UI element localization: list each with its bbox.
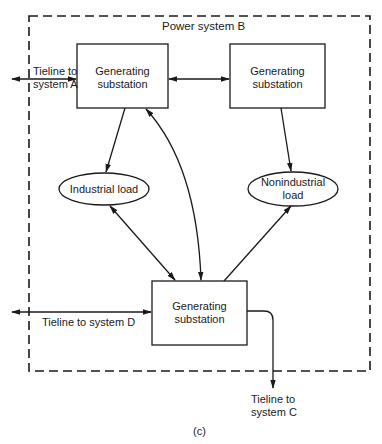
nonindustrial-line2: load	[248, 189, 338, 202]
gen-top-right-line2: substation	[230, 78, 325, 91]
gen-top-left-line1: Generating	[77, 65, 168, 78]
tieline-c-label: Tieline to system C	[251, 393, 297, 419]
tieline-c-line2: system C	[251, 406, 297, 419]
gen-bottom-line1: Generating	[152, 300, 247, 313]
edge-top-left-industrial	[106, 108, 125, 172]
edge-top-right-nonindustrial	[281, 108, 291, 171]
nonindustrial-load-label: Nonindustrial load	[248, 176, 338, 202]
gen-top-left-line2: substation	[77, 78, 168, 91]
edge-industrial-bottom	[110, 206, 175, 280]
system-label: Power system B	[162, 20, 245, 33]
tieline-a-line2: system A	[33, 78, 78, 91]
tieline-c-line1: Tieline to	[251, 393, 297, 406]
nonindustrial-line1: Nonindustrial	[248, 176, 338, 189]
tieline-d-label: Tieline to system D	[42, 316, 135, 329]
edge-top-left-bottom-curve	[146, 109, 201, 280]
edge-bottom-nonindustrial	[224, 206, 291, 281]
figure-caption: (c)	[193, 425, 206, 438]
gen-top-left-label: Generating substation	[77, 65, 168, 91]
gen-top-right-line1: Generating	[230, 65, 325, 78]
gen-bottom-line2: substation	[152, 313, 247, 326]
tieline-c-arrow	[247, 311, 273, 388]
gen-top-right-label: Generating substation	[230, 65, 325, 91]
industrial-load-label: Industrial load	[59, 183, 149, 196]
tieline-a-line1: Tieline to	[33, 65, 78, 78]
tieline-a-label: Tieline to system A	[33, 65, 78, 91]
gen-bottom-label: Generating substation	[152, 300, 247, 326]
